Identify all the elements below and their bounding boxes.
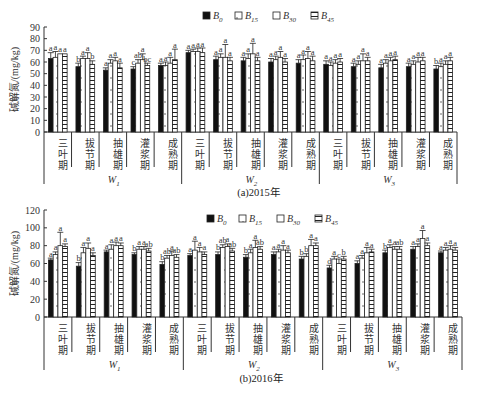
significance-letter: a	[356, 51, 360, 61]
bar-b15	[191, 52, 196, 133]
x-category-label: 拔节期	[359, 137, 370, 171]
bar-b45	[202, 255, 207, 317]
bar-b45	[283, 62, 288, 132]
bar-b45	[369, 252, 374, 317]
significance-letter: a	[82, 238, 86, 248]
bar-b0	[383, 253, 388, 317]
significance-letter: a	[444, 238, 448, 248]
bar-b30	[140, 60, 145, 132]
bar-b15	[332, 259, 337, 317]
significance-letter: a	[188, 244, 192, 254]
bar-b30	[142, 249, 147, 317]
significance-letter: a	[214, 47, 218, 57]
bar-b0	[439, 253, 444, 317]
significance-letter: ab	[172, 245, 180, 255]
significance-letter: a	[421, 48, 425, 58]
bar-b15	[439, 67, 444, 132]
significance-letter: a	[113, 48, 117, 58]
legend-label-b45: B45	[325, 213, 339, 227]
significance-letter: a	[286, 241, 290, 251]
bar-b45	[425, 246, 430, 317]
bar-b0	[327, 268, 332, 317]
bar-b45	[200, 53, 205, 132]
significance-letter: a	[439, 54, 443, 64]
significance-letter: b	[434, 56, 438, 66]
bar-b15	[443, 250, 448, 317]
legend-swatch-b45	[315, 215, 322, 222]
y-tick-label: 90	[30, 22, 40, 33]
legend-swatch-b15	[239, 215, 246, 222]
bar-b15	[136, 63, 141, 132]
bar-b30	[443, 64, 448, 132]
significance-letter: a	[334, 50, 338, 60]
significance-letter: b	[383, 241, 387, 251]
y-tick-label: 120	[25, 205, 40, 216]
significance-letter: a	[311, 47, 315, 57]
bar-b15	[81, 253, 86, 317]
y-axis-label: 碱解氮/(mg/kg)	[8, 231, 21, 296]
significance-letter: ab	[228, 239, 236, 249]
significance-letter: a	[314, 233, 318, 243]
significance-letter: a	[352, 54, 356, 64]
x-category-label: 抽雄期	[252, 322, 263, 356]
significance-letter: a	[168, 48, 172, 58]
significance-letter: a	[109, 50, 113, 60]
significance-letter: a	[416, 234, 420, 244]
significance-letter: a	[119, 233, 123, 243]
bar-b0	[241, 61, 246, 132]
significance-letter: a	[173, 40, 177, 50]
bar-b30	[392, 249, 397, 317]
bar-b30	[306, 59, 311, 133]
bar-b30	[420, 239, 425, 317]
bar-b15	[415, 247, 420, 317]
bar-b15	[81, 59, 86, 133]
y-tick-label: 0	[35, 312, 40, 323]
bar-b30	[113, 61, 118, 132]
significance-letter: a	[63, 234, 67, 244]
bar-b15	[360, 258, 365, 317]
significance-letter: a	[105, 241, 109, 251]
significance-letter: ab	[145, 239, 153, 249]
significance-letter: a	[411, 51, 415, 61]
bar-b0	[188, 255, 193, 317]
bar-b0	[299, 259, 304, 317]
bar-b15	[218, 57, 223, 132]
x-category-label: 三叶期	[56, 323, 67, 356]
significance-letter: a	[54, 242, 58, 252]
significance-letter: a	[425, 233, 429, 243]
legend-swatch-b15	[235, 12, 242, 19]
significance-letter: a	[187, 41, 191, 51]
significance-letter: a	[249, 240, 253, 250]
y-tick-label: 60	[30, 258, 40, 269]
significance-letter: a	[91, 243, 95, 253]
y-tick-label: 40	[30, 80, 40, 91]
significance-letter: a	[366, 48, 370, 58]
y-tick-label: 80	[30, 240, 40, 251]
legend-swatch-b0	[207, 215, 214, 222]
significance-letter: b	[244, 245, 248, 255]
bar-b45	[173, 60, 178, 132]
significance-letter: b	[304, 244, 308, 254]
x-category-label: 成熟期	[307, 323, 318, 356]
bar-b30	[225, 247, 230, 317]
significance-letter: ab	[256, 237, 264, 247]
significance-letter: a	[297, 50, 301, 60]
x-category-label: 拔节期	[221, 137, 232, 171]
x-category-label: 成熟期	[447, 323, 458, 356]
significance-letter: a	[277, 240, 281, 250]
significance-letter: a	[274, 47, 278, 57]
significance-letter: a	[301, 46, 305, 56]
x-category-label: 拔节期	[84, 322, 95, 356]
significance-letter: a	[370, 240, 374, 250]
bar-b30	[58, 54, 63, 132]
significance-letter: a	[269, 49, 273, 59]
significance-letter: a	[81, 47, 85, 57]
group-label-w2: W2	[248, 359, 260, 373]
significance-letter: a	[278, 42, 282, 52]
significance-letter: a	[388, 235, 392, 245]
legend-swatch-b0	[203, 12, 210, 19]
significance-letter: b	[300, 247, 304, 257]
significance-letter: a	[201, 39, 205, 49]
y-tick-label: 30	[30, 92, 40, 103]
bar-b15	[220, 247, 225, 317]
